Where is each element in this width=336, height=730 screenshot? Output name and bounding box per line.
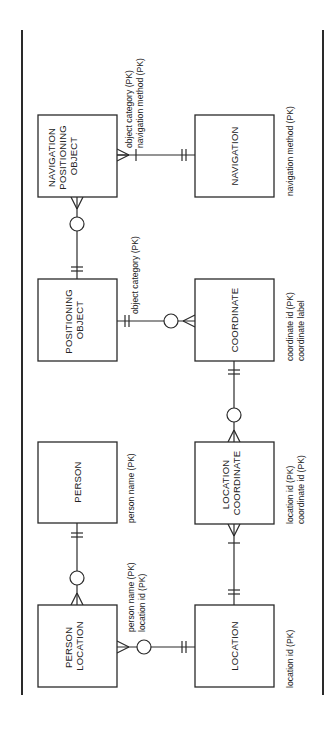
entity-person-location[interactable]: PERSON LOCATION: [38, 605, 117, 687]
svg-text:PERSON LOCATION: PERSON LOCATION: [63, 621, 85, 670]
attr-npo: object category (PK) navigation method (…: [124, 58, 145, 148]
svg-text:NAVIGATION: NAVIGATION: [229, 126, 240, 185]
svg-text:PERSON: PERSON: [72, 461, 83, 502]
entity-navigation[interactable]: NAVIGATION: [195, 115, 274, 197]
rel-location-person-location: [117, 640, 195, 654]
rel-positioning-object-coordinate: [117, 314, 195, 328]
attr-person-location: person name (PK) location id (PK): [126, 560, 147, 632]
attr-location-coordinate: location id (PK) coordinate id (PK): [285, 455, 306, 524]
er-diagram: NAVIGATION POSITIONING OBJECT NAVIGATION…: [0, 0, 336, 730]
rel-positioning-object-npo: [70, 197, 84, 279]
svg-text:LOCATION COORDINATE: LOCATION COORDINATE: [220, 451, 242, 516]
svg-text:LOCATION: LOCATION: [229, 621, 240, 670]
attr-person: person name (PK): [126, 453, 136, 523]
entity-person[interactable]: PERSON: [38, 442, 117, 523]
attr-location: location id (PK): [285, 630, 295, 688]
attr-navigation: navigation method (PK): [285, 106, 295, 196]
rel-navigation-npo: [117, 149, 195, 161]
rel-location-location-coordinate: [228, 524, 240, 605]
attr-coordinate: coordinate id (PK) coordinate label: [285, 290, 306, 361]
entity-location[interactable]: LOCATION: [195, 605, 274, 687]
entity-coordinate[interactable]: COORDINATE: [195, 279, 274, 361]
entity-navigation-positioning-object[interactable]: NAVIGATION POSITIONING OBJECT: [38, 115, 117, 197]
attr-positioning-object: object category (PK): [130, 236, 140, 314]
svg-text:COORDINATE: COORDINATE: [229, 288, 240, 353]
rel-person-person-location: [70, 523, 84, 605]
entity-positioning-object[interactable]: POSITIONING OBJECT: [38, 279, 117, 361]
entity-location-coordinate[interactable]: LOCATION COORDINATE: [195, 442, 274, 524]
rel-coordinate-location-coordinate: [227, 361, 241, 442]
